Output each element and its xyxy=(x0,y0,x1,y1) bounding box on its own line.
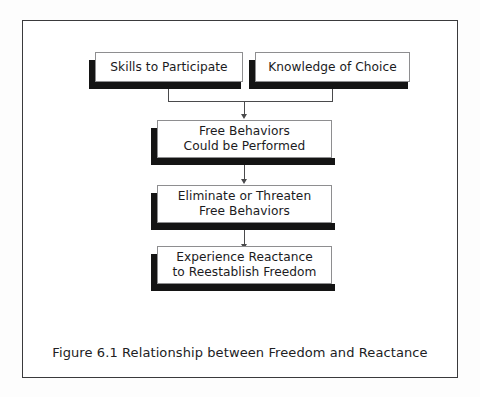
node-shadow-eliminate-bottom xyxy=(151,223,335,230)
node-shadow-skills-to-participate-bottom xyxy=(89,82,241,89)
node-label-knowledge-of-choice: Knowledge of Choice xyxy=(264,60,401,75)
node-shadow-knowledge-of-choice-bottom xyxy=(249,82,408,89)
figure-root: Skills to Participate Knowledge of Choic… xyxy=(0,0,480,397)
arrowhead-into-free-behaviors xyxy=(241,114,247,119)
node-free-behaviors-could-be-performed[interactable]: Free Behaviors Could be Performed xyxy=(157,120,332,158)
node-eliminate-or-threaten-free-behaviors[interactable]: Eliminate or Threaten Free Behaviors xyxy=(157,185,332,223)
node-label-skills-to-participate: Skills to Participate xyxy=(106,60,231,75)
connector-merge-horizontal xyxy=(168,101,333,102)
node-shadow-free-behaviors-bottom xyxy=(151,158,335,165)
node-shadow-experience-reactance-bottom xyxy=(151,284,335,291)
node-knowledge-of-choice[interactable]: Knowledge of Choice xyxy=(255,52,410,82)
arrowhead-into-eliminate-or-threaten xyxy=(241,179,247,184)
connector-eliminate-to-experience-reactance xyxy=(244,230,245,245)
node-skills-to-participate[interactable]: Skills to Participate xyxy=(95,52,243,82)
node-experience-reactance-to-reestablish-freedom[interactable]: Experience Reactance to Reestablish Free… xyxy=(157,246,332,284)
node-label-experience-reactance-to-reestablish-freedom: Experience Reactance to Reestablish Free… xyxy=(168,250,320,279)
node-label-free-behaviors-could-be-performed: Free Behaviors Could be Performed xyxy=(180,124,310,153)
connector-free-behaviors-to-eliminate xyxy=(244,165,245,180)
figure-caption: Figure 6.1 Relationship between Freedom … xyxy=(22,345,458,360)
node-label-eliminate-or-threaten-free-behaviors: Eliminate or Threaten Free Behaviors xyxy=(174,189,315,218)
